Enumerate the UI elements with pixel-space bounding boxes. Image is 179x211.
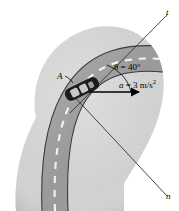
acceleration-label: a = 3 m/s2 — [119, 79, 156, 90]
angle-label: θ = 40° — [114, 63, 141, 72]
n-axis-label: n — [166, 192, 171, 201]
figure-container: t n A θ = 40° a = 3 m/s2 — [0, 0, 179, 211]
point-a-label: A — [57, 72, 63, 81]
t-axis-label: t — [166, 8, 169, 17]
acceleration-exponent: 2 — [153, 78, 156, 85]
diagram-svg — [0, 0, 179, 211]
acceleration-value-text: = 3 m/s — [124, 80, 153, 90]
